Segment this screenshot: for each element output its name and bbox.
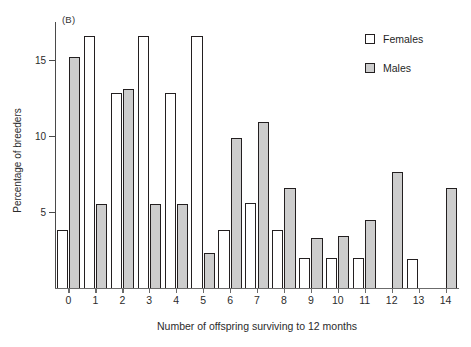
x-axis-tick-label: 2 (109, 294, 135, 306)
legend-swatch-males-icon (365, 63, 375, 73)
bar-males-9 (311, 238, 322, 288)
legend-swatch-females-icon (365, 34, 375, 44)
x-axis-tick-label: 13 (406, 294, 432, 306)
bar-females-3 (138, 36, 149, 288)
x-axis-tick (419, 288, 420, 293)
bar-females-1 (84, 36, 95, 288)
x-axis-tick (284, 288, 285, 293)
x-axis-tick (392, 288, 393, 293)
bar-males-12 (392, 172, 403, 288)
bar-males-5 (204, 253, 215, 288)
x-axis-tick (311, 288, 312, 293)
bar-females-8 (272, 230, 283, 288)
bar-males-3 (150, 204, 161, 288)
bar-females-4 (165, 93, 176, 288)
x-axis-tick-label: 7 (244, 294, 270, 306)
bar-males-1 (96, 204, 107, 288)
x-axis-tick (257, 288, 258, 293)
bar-females-2 (111, 93, 122, 288)
bar-females-9 (299, 258, 310, 288)
bar-males-14 (446, 188, 457, 288)
legend-label-females: Females (383, 33, 423, 45)
y-axis-tick-label: 10 (26, 131, 46, 142)
chart-legend: Females Males (365, 33, 423, 91)
bar-males-10 (338, 236, 349, 288)
x-axis-tick-label: 3 (136, 294, 162, 306)
x-axis-tick (149, 288, 150, 293)
bar-males-11 (365, 220, 376, 288)
x-axis-title: Number of offspring surviving to 12 mont… (55, 320, 459, 332)
x-axis-tick (176, 288, 177, 293)
bar-females-5 (191, 36, 202, 288)
legend-entry-females: Females (365, 33, 423, 45)
x-axis-tick-label: 14 (433, 294, 459, 306)
x-axis-tick (122, 288, 123, 293)
bar-males-6 (231, 138, 242, 288)
x-axis-tick-label: 5 (190, 294, 216, 306)
x-axis-tick (95, 288, 96, 293)
bar-females-6 (218, 230, 229, 288)
x-axis-tick (338, 288, 339, 293)
bar-chart-figure: (B) 51015 Percentage of breeders 0123456… (0, 0, 471, 347)
y-axis-tick-label: 15 (26, 55, 46, 66)
x-axis-tick (68, 288, 69, 293)
x-axis-tick (446, 288, 447, 293)
bar-females-13 (407, 259, 418, 288)
bar-males-2 (123, 89, 134, 288)
bar-males-7 (258, 122, 269, 288)
bar-males-8 (284, 188, 295, 288)
bar-females-0 (57, 230, 68, 288)
bar-females-7 (245, 203, 256, 288)
x-axis-tick-label: 0 (55, 294, 81, 306)
y-axis-tick-labels: 51015 (22, 0, 46, 347)
x-axis-tick-label: 6 (217, 294, 243, 306)
x-axis-tick (203, 288, 204, 293)
x-axis-tick (230, 288, 231, 293)
y-axis-title: Percentage of breeders (12, 71, 23, 251)
x-axis-tick (365, 288, 366, 293)
bar-females-10 (326, 258, 337, 288)
legend-label-males: Males (383, 62, 411, 74)
y-axis-tick-label: 5 (26, 207, 46, 218)
bar-females-11 (353, 258, 364, 288)
x-axis-tick-label: 4 (163, 294, 189, 306)
x-axis-tick-label: 12 (379, 294, 405, 306)
x-axis-tick-label: 8 (271, 294, 297, 306)
bar-males-0 (69, 57, 80, 288)
x-axis-tick-label: 11 (352, 294, 378, 306)
legend-entry-males: Males (365, 62, 423, 74)
x-axis-tick-label: 1 (82, 294, 108, 306)
x-axis-tick-label: 10 (325, 294, 351, 306)
x-axis-tick-label: 9 (298, 294, 324, 306)
bar-males-4 (177, 204, 188, 288)
